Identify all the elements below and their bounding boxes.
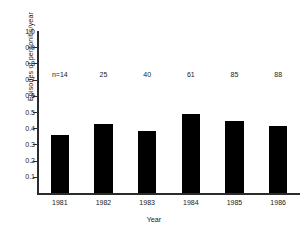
y-axis-tick-label: 0.3	[13, 141, 35, 148]
y-axis-tick-label: 0.9	[13, 44, 35, 51]
y-axis-tick-label: 0.2	[13, 157, 35, 164]
bar-slot	[269, 31, 287, 193]
y-axis-tick-mark	[33, 80, 37, 81]
y-axis-tick-mark	[33, 177, 37, 178]
bar-1983	[138, 131, 156, 193]
bar-1985	[225, 121, 243, 193]
sample-size-label-1981: n=14	[38, 71, 82, 78]
sample-size-label-1983: 40	[125, 71, 169, 78]
y-axis-tick-label: 0.5	[13, 109, 35, 116]
x-axis-tick-label-1981: 1981	[38, 199, 82, 206]
plot-area	[38, 31, 300, 193]
x-axis-title: Year	[0, 215, 308, 224]
bar-1981	[51, 135, 69, 193]
bar-slot	[51, 31, 69, 193]
x-axis-tick-label-1983: 1983	[125, 199, 169, 206]
y-axis-tick-mark	[33, 47, 37, 48]
x-axis-tick-label-1982: 1982	[82, 199, 126, 206]
y-axis-tick-label: 0.7	[13, 76, 35, 83]
bar-chart: Episodes of peritonitis/year 1.00.90.80.…	[0, 0, 308, 235]
y-axis-tick-label: 0.6	[13, 92, 35, 99]
y-axis-tick-labels: 1.00.90.80.70.60.50.40.30.20.1	[11, 0, 35, 235]
x-axis-tick-label-1985: 1985	[213, 199, 257, 206]
bar-slot	[138, 31, 156, 193]
y-axis-tick-mark	[33, 112, 37, 113]
y-axis-tick-mark	[33, 128, 37, 129]
y-axis-tick-label: 0.8	[13, 60, 35, 67]
y-axis-tick-mark	[33, 161, 37, 162]
y-axis-tick-label: 0.1	[13, 173, 35, 180]
bar-slot	[94, 31, 112, 193]
bar-1982	[94, 124, 112, 193]
y-axis-tick-label: 0.4	[13, 125, 35, 132]
sample-size-label-1982: 25	[82, 71, 126, 78]
x-axis-line	[37, 193, 300, 195]
bar-slot	[225, 31, 243, 193]
bar-1986	[269, 126, 287, 193]
y-axis-tick-label: 1.0	[13, 28, 35, 35]
bar-1984	[182, 114, 200, 193]
y-axis-tick-mark	[33, 144, 37, 145]
x-axis-tick-label-1986: 1986	[256, 199, 300, 206]
y-axis-tick-mark	[33, 63, 37, 64]
x-axis-tick-label-1984: 1984	[169, 199, 213, 206]
y-axis-tick-mark	[33, 96, 37, 97]
sample-size-label-1986: 88	[256, 71, 300, 78]
sample-size-label-1984: 61	[169, 71, 213, 78]
sample-size-label-1985: 85	[213, 71, 257, 78]
bar-slot	[182, 31, 200, 193]
